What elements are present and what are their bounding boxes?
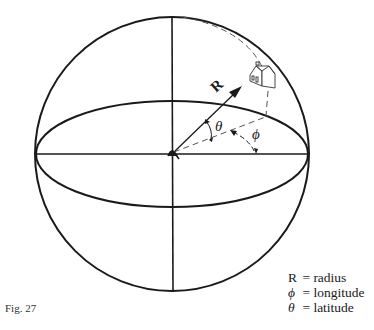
legend-eq: = bbox=[302, 300, 310, 315]
figure-caption: Fig. 27 bbox=[5, 302, 36, 314]
origin-marker bbox=[168, 151, 179, 159]
house-to-equator-dashed bbox=[266, 91, 268, 116]
legend-eq: = bbox=[302, 285, 310, 300]
legend-meaning: latitude bbox=[313, 300, 354, 315]
legend-symbol: ϕ bbox=[288, 285, 299, 300]
house-icon bbox=[250, 62, 275, 88]
meridian-dashed-arc bbox=[183, 17, 266, 76]
legend-item-latitude: θ = latitude bbox=[288, 300, 364, 315]
latitude-angle-label: θ bbox=[215, 118, 223, 134]
legend-item-radius: R = radius bbox=[288, 270, 364, 285]
legend-eq: = bbox=[302, 270, 310, 285]
longitude-angle-label: ϕ bbox=[252, 126, 260, 142]
legend-symbol: θ bbox=[288, 300, 299, 315]
legend-symbol: R bbox=[288, 270, 299, 285]
radius-label: R bbox=[207, 76, 226, 95]
longitude-arrowhead-bottom bbox=[254, 148, 258, 154]
legend-item-longitude: ϕ = longitude bbox=[288, 285, 364, 300]
legend-meaning: radius bbox=[313, 270, 346, 285]
legend-meaning: longitude bbox=[313, 285, 364, 300]
legend: R = radius ϕ = longitude θ = latitude bbox=[288, 270, 364, 315]
latitude-angle-arc bbox=[206, 121, 211, 139]
